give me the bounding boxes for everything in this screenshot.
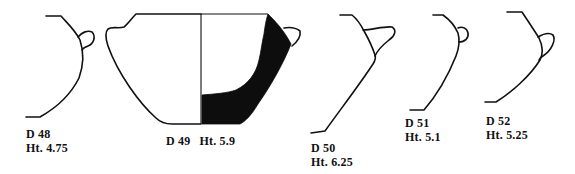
label-d50: D 50 Ht. 6.25 <box>311 141 353 169</box>
label-d49: D 49Ht. 5.9 <box>166 134 235 148</box>
vessel-id: D 52 <box>486 114 528 128</box>
d49-left-outline <box>106 14 201 124</box>
vessel-id: D 49 <box>166 134 190 148</box>
vessel-id: D 50 <box>311 141 353 155</box>
vessel-height: Ht. 4.75 <box>26 141 68 155</box>
d50-body-outline <box>311 15 375 133</box>
vessel-id: D 51 <box>405 116 441 130</box>
d52-handle-outline <box>538 34 554 60</box>
vessel-profile-d49 <box>106 14 300 124</box>
pottery-plate: D 48 Ht. 4.75 D 49Ht. 5.9 D 50 Ht. 6.25 … <box>0 0 575 174</box>
d48-body-outline <box>26 16 83 117</box>
vessel-height: Ht. 6.25 <box>311 155 353 169</box>
label-d52: D 52 Ht. 5.25 <box>486 114 528 142</box>
d51-body-outline <box>410 15 459 110</box>
d49-wall-section <box>202 14 291 124</box>
vessel-profile-d51 <box>410 15 468 110</box>
d52-body-outline <box>485 12 542 102</box>
vessel-id: D 48 <box>26 127 68 141</box>
vessel-height: Ht. 5.25 <box>486 128 528 142</box>
label-d51: D 51 Ht. 5.1 <box>405 116 441 144</box>
vessel-profile-d48 <box>26 16 94 117</box>
label-d48: D 48 Ht. 4.75 <box>26 127 68 155</box>
vessel-profile-d52 <box>485 12 554 102</box>
vessel-height: Ht. 5.9 <box>199 134 235 148</box>
vessel-profile-d50 <box>311 15 395 133</box>
d50-handle-outline <box>363 27 395 56</box>
vessel-height: Ht. 5.1 <box>405 130 441 144</box>
profile-drawings <box>0 0 575 174</box>
